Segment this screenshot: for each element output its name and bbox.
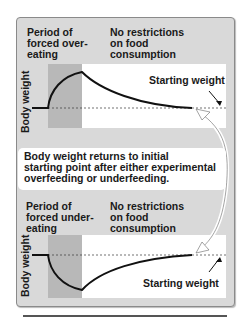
top-no-restrictions-label: No restrictions on food consumption	[110, 27, 184, 60]
callout-text: Body weight returns to initial starting …	[24, 151, 229, 184]
bottom-starting-weight-label: Starting weight	[143, 278, 219, 289]
top-y-axis-label: Body weight	[19, 71, 31, 133]
bottom-no-restrictions-label: No restrictions on food consumption	[110, 201, 184, 234]
bottom-divider	[23, 315, 227, 317]
top-starting-weight-label: Starting weight	[149, 75, 225, 86]
top-period-label: Period of forced over- eating	[27, 27, 88, 60]
bottom-y-axis-label: Body weight	[19, 235, 31, 297]
bottom-period-label: Period of forced under- eating	[26, 201, 94, 234]
